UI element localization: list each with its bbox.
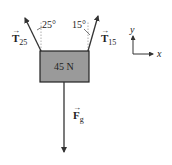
angle-15-label: 15° — [72, 20, 86, 30]
tension-25-subscript: 25 — [19, 38, 27, 47]
vector-arrow-icon: → — [73, 104, 81, 112]
vector-arrow-icon: → — [101, 27, 109, 35]
y-axis-label: y — [130, 25, 134, 35]
gravity-label: → Fg — [73, 110, 84, 124]
free-body-diagram — [0, 0, 172, 165]
angle-25-label: 25° — [42, 20, 56, 30]
vector-arrow-icon: → — [12, 27, 20, 35]
block-weight-label: 45 N — [54, 62, 74, 72]
x-axis-label: x — [157, 49, 161, 59]
tension-25-label: → T25 — [12, 33, 27, 47]
tension-15-label: → T15 — [101, 33, 116, 47]
tension-15-subscript: 15 — [108, 38, 116, 47]
gravity-subscript: g — [80, 115, 84, 124]
tension-15-arrow — [88, 16, 98, 51]
tension-25-arrow — [25, 18, 41, 51]
